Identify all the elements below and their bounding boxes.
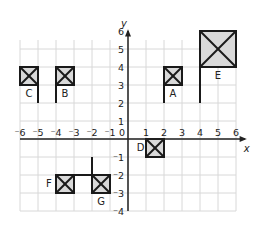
x-axis-label: x	[243, 143, 250, 154]
coordinate-grid: ABCDEFG xy⁻6⁻5⁻4⁻3⁻2⁻11234560123456⁻1⁻2⁻…	[0, 0, 267, 230]
x-tick-label: ⁻1	[104, 127, 115, 138]
y-tick-label: ⁻2	[113, 170, 124, 181]
x-tick-label: ⁻6	[14, 127, 25, 138]
x-tick-label: ⁻5	[32, 127, 43, 138]
x-tick-label: 1	[143, 127, 149, 138]
flag-label: B	[62, 88, 69, 99]
x-tick-label: 6	[233, 127, 239, 138]
x-tick-label: 5	[215, 127, 221, 138]
y-tick-label: 4	[118, 62, 124, 73]
y-tick-label: 3	[118, 80, 124, 91]
x-tick-label: ⁻4	[50, 127, 61, 138]
y-tick-label: 6	[118, 26, 124, 37]
x-axis-arrow-icon	[240, 136, 247, 142]
y-tick-label: 1	[118, 116, 124, 127]
y-tick-label: 2	[118, 98, 124, 109]
x-tick-label: ⁻2	[86, 127, 97, 138]
y-tick-label: ⁻4	[113, 206, 124, 217]
flag-label: G	[97, 196, 105, 207]
x-tick-label: 4	[197, 127, 203, 138]
flag-c: C	[20, 67, 38, 103]
flag-label: E	[215, 70, 221, 81]
y-tick-label: ⁻3	[113, 188, 124, 199]
flag-g: G	[92, 157, 110, 207]
origin-label: 0	[119, 127, 125, 138]
flag-label: D	[137, 142, 145, 153]
flag-label: C	[26, 88, 33, 99]
flag-b: B	[56, 67, 74, 103]
flag-label: A	[170, 88, 177, 99]
y-axis-arrow-icon	[125, 29, 131, 36]
flag-d: D	[137, 139, 164, 157]
flag-f: F	[46, 175, 92, 193]
x-tick-label: ⁻3	[68, 127, 79, 138]
x-tick-label: 3	[179, 127, 185, 138]
y-tick-label: ⁻1	[113, 152, 124, 163]
flag-label: F	[46, 178, 52, 189]
flag-a: A	[164, 67, 182, 103]
x-tick-label: 2	[161, 127, 167, 138]
y-tick-label: 5	[118, 44, 124, 55]
